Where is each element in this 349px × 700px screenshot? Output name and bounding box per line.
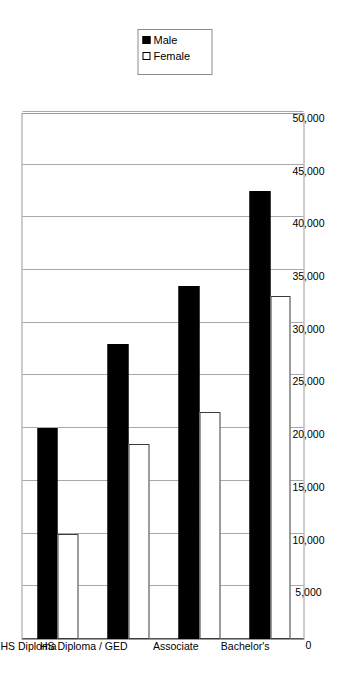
legend-entry-female: Female xyxy=(140,48,210,64)
tick-label-text: 35,000 xyxy=(292,271,324,282)
gridline xyxy=(22,111,303,112)
gridline xyxy=(22,164,303,165)
tick-label-text: 0 xyxy=(305,640,311,651)
tick-label-text: 30,000 xyxy=(292,324,324,335)
tick-label-text: 40,000 xyxy=(292,218,324,229)
tick-label-text: 5,000 xyxy=(295,587,321,598)
bar-male-associate xyxy=(178,286,199,639)
category-label-bachelor-s: Bachelor's xyxy=(220,640,269,652)
bar-male-bachelor-s xyxy=(249,191,270,639)
plot-area xyxy=(21,113,304,640)
tick-label-text: 10,000 xyxy=(292,535,324,546)
chart-rotation-wrapper: 05,00010,00015,00020,00025,00030,00035,0… xyxy=(0,0,349,700)
bar-chart-figure: 05,00010,00015,00020,00025,00030,00035,0… xyxy=(0,0,349,700)
tick-label-text: 45,000 xyxy=(292,166,324,177)
value-axis-tick-labels: 05,00010,00015,00020,00025,00030,00035,0… xyxy=(308,113,348,640)
filled-square-icon xyxy=(142,36,150,44)
tick-label-text: 25,000 xyxy=(292,377,324,388)
bar-female-hs-diploma-ged xyxy=(128,444,149,639)
category-label-associate: Associate xyxy=(152,640,198,652)
tick-label-text: 15,000 xyxy=(292,482,324,493)
bar-male-hs-diploma-ged xyxy=(107,344,128,639)
category-label-hs-diploma-ged: HS Diploma / GED xyxy=(40,640,128,652)
hollow-square-icon xyxy=(142,52,150,60)
legend-label-text: Male xyxy=(153,34,177,46)
bar-female-associate xyxy=(199,412,220,639)
bar-female-no-hs-diploma xyxy=(57,534,78,639)
legend-label-text: Female xyxy=(153,50,190,62)
tick-label-text: 50,000 xyxy=(292,113,324,124)
legend-entries: MaleFemale xyxy=(140,32,210,72)
bar-female-bachelor-s xyxy=(270,296,291,639)
category-axis-labels: No HS DiplomaHS Diploma / GEDAssociateBa… xyxy=(21,642,304,700)
legend-entry-male: Male xyxy=(140,32,210,48)
tick-label-text: 20,000 xyxy=(292,429,324,440)
bar-male-no-hs-diploma xyxy=(37,428,58,639)
chart-legend: MaleFemale xyxy=(137,29,212,75)
